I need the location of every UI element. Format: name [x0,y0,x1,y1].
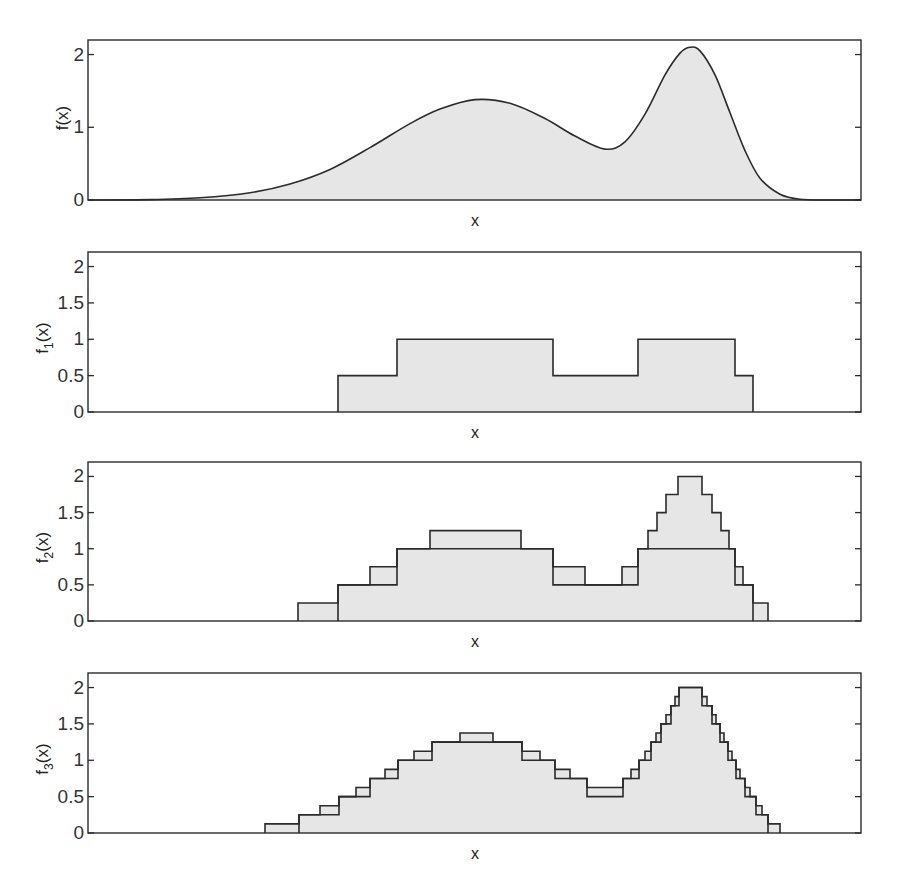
figure: 012xf(x) 00.511.52xf1(x) 00.511.52xf2(x)… [0,0,898,891]
y-tick-label: 1 [73,749,84,770]
y-tick-label: 1.5 [58,713,84,734]
y-tick-label: 0 [73,401,84,422]
x-axis-label: x [471,212,479,229]
y-axis-label: f2(x) [33,532,56,563]
y-tick-label: 0 [73,822,84,843]
y-tick-label: 0 [73,610,84,631]
y-axis-label: f3(x) [33,743,56,774]
y-axis-label: f1(x) [33,322,56,353]
y-tick-label: 1.5 [58,502,84,523]
y-tick-label: 0.5 [58,786,84,807]
y-tick-label: 2 [73,256,84,277]
y-tick-label: 0 [73,189,84,210]
x-axis-label: x [471,633,479,650]
panel-f-of-x: 012xf(x) [53,40,861,229]
step-fill [338,339,753,412]
panel-f2-of-x: 00.511.52xf2(x) [33,462,861,650]
x-axis-label: x [471,424,479,441]
area-fill [88,47,861,200]
y-tick-label: 1.5 [58,292,84,313]
y-tick-label: 0.5 [58,574,84,595]
y-axis-label: f(x) [53,106,72,131]
panel-f1-of-x: 00.511.52xf1(x) [33,252,861,441]
panel-f3-of-x: 00.511.52xf3(x) [33,673,861,862]
y-tick-label: 1 [73,328,84,349]
y-tick-label: 0.5 [58,365,84,386]
y-tick-label: 2 [73,465,84,486]
y-tick-label: 1 [73,116,84,137]
x-axis-label: x [471,845,479,862]
y-tick-label: 2 [73,677,84,698]
y-tick-label: 2 [73,44,84,65]
y-tick-label: 1 [73,538,84,559]
